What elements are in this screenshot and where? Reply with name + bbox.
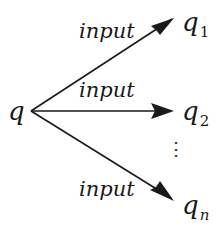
edge-label-q2: input: [79, 80, 135, 101]
target-node-qn: qn: [182, 192, 209, 223]
target-node-base: q: [182, 190, 199, 220]
target-node-subscript: n: [200, 206, 210, 224]
target-node-q2: q2: [182, 98, 209, 129]
ellipsis-glyph: ⋮: [167, 138, 185, 159]
edge-label-qn: input: [79, 179, 135, 200]
target-node-base: q: [182, 7, 199, 37]
edge-label-text: input: [79, 177, 135, 201]
edge-label-q1: input: [79, 21, 135, 42]
edge-label-text: input: [79, 78, 135, 102]
target-node-subscript: 2: [200, 112, 210, 130]
arrowhead-icon: [151, 18, 174, 35]
arrowhead-icon: [150, 181, 174, 201]
diagram-canvas: q q1 q2 qn ⋮ input input input: [0, 0, 222, 227]
ellipsis-vertical: ⋮: [167, 146, 173, 152]
edge-q-to-q2: [31, 103, 174, 119]
edge-label-text: input: [79, 19, 135, 43]
target-node-base: q: [182, 96, 199, 126]
target-node-q1: q1: [182, 9, 209, 40]
source-node-q: q: [8, 98, 25, 124]
source-node-label: q: [8, 96, 25, 126]
target-node-subscript: 1: [200, 23, 210, 41]
